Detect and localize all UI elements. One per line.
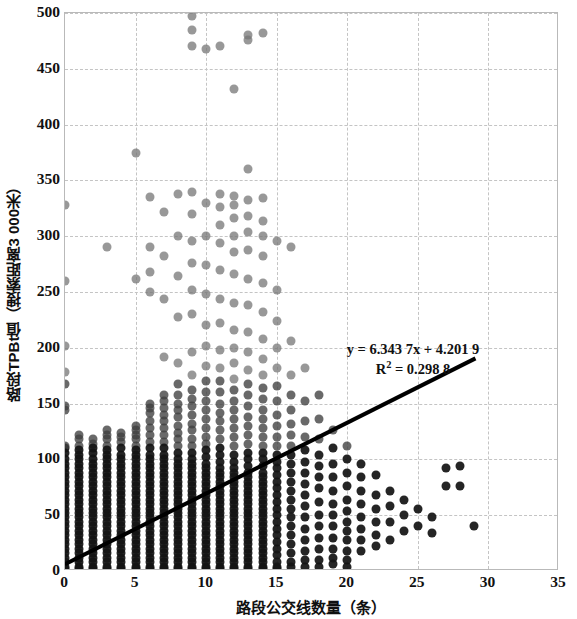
x-axis-tick-label: 5	[131, 574, 139, 590]
y-axis-tick-label: 350	[24, 172, 60, 188]
y-axis-tick-label: 250	[24, 283, 60, 299]
scatter-chart: 路段TPBt值（搜索距离3 000米） 05010015020025030035…	[0, 0, 577, 619]
y-axis-tick-label: 150	[24, 395, 60, 411]
trendline	[65, 13, 557, 569]
y-axis-tick-label: 100	[24, 451, 60, 467]
trendline-segment	[65, 358, 475, 564]
x-axis-tick-label: 35	[550, 574, 566, 590]
plot-area	[64, 12, 558, 570]
y-axis-tick-label: 50	[24, 506, 60, 522]
x-axis-tick-label: 30	[480, 574, 496, 590]
y-axis-title: 路段TPBt值（搜索距离3 000米）	[0, 0, 26, 580]
y-axis-tick-label: 0	[24, 562, 60, 578]
x-axis-title: 路段公交线数量（条）	[64, 596, 558, 617]
x-axis-tick-labels: 05101520253035	[64, 574, 558, 596]
x-axis-tick-label: 15	[268, 574, 284, 590]
y-axis-tick-label: 450	[24, 60, 60, 76]
x-axis-tick-label: 0	[60, 574, 68, 590]
y-axis-tick-label: 300	[24, 227, 60, 243]
y-axis-tick-label: 400	[24, 116, 60, 132]
x-axis-tick-label: 10	[197, 574, 213, 590]
y-axis-tick-label: 500	[24, 4, 60, 20]
y-axis-tick-labels: 050100150200250300350400450500	[24, 0, 60, 619]
x-axis-tick-label: 25	[409, 574, 425, 590]
x-axis-tick-label: 20	[339, 574, 355, 590]
y-axis-tick-label: 200	[24, 339, 60, 355]
y-axis-title-text: 路段TPBt值（搜索距离3 000米）	[3, 179, 24, 402]
